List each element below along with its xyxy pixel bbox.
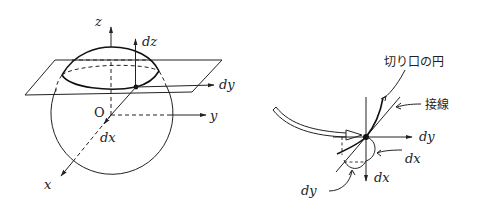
y-axis-label: y [209, 108, 218, 123]
dx-arrow [104, 115, 111, 124]
tangent-label: 接線 [425, 97, 449, 112]
figure: z dz dy y O x dx dx [0, 0, 481, 217]
x-axis [61, 159, 75, 176]
radius-line [111, 87, 136, 115]
cut-circle-label: 切り口の円 [384, 55, 444, 69]
origin-label: O [94, 105, 105, 120]
tangent-leader [397, 104, 421, 107]
dy-arrow [136, 85, 214, 87]
sphere-hidden-left-arc [56, 75, 62, 95]
dy-label: dy [219, 77, 235, 92]
dz-label: dz [142, 34, 157, 49]
x-axis-label: x [44, 177, 52, 192]
horizontal-plane [25, 60, 222, 95]
dx-curve-leader-tip [377, 150, 381, 156]
left-sphere-diagram: z dz dy y O x dx [25, 14, 235, 192]
dx-axis-label: dx [374, 170, 390, 185]
dx-arc [366, 137, 375, 161]
dy-arc [344, 160, 366, 168]
right-enlarged-diagram: dx dy 切り口の円 接線 dx dy [301, 55, 449, 198]
cut-circle-curve [337, 98, 383, 154]
dx-curve-label: dx [405, 151, 421, 166]
dy-curve-label: dy [301, 183, 317, 198]
cut-circle-leader [384, 70, 405, 98]
hollow-curved-arrow-icon [273, 107, 362, 140]
dy-axis-label: dy [419, 129, 435, 144]
z-axis-label: z [94, 14, 102, 29]
dx-label: dx [100, 130, 116, 145]
sphere-hidden-right-arc [159, 71, 167, 90]
dy-curve-leader [329, 171, 352, 191]
